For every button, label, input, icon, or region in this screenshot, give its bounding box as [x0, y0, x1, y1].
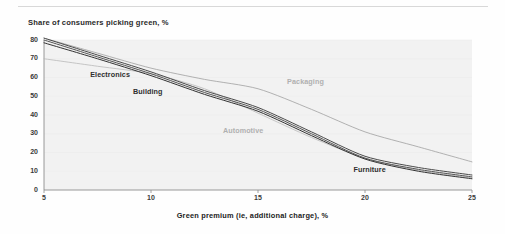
- y-tick-label-30: 30: [20, 129, 38, 136]
- x-tick-label-25: 25: [460, 194, 484, 201]
- series-label-packaging: Packaging: [287, 77, 324, 86]
- x-tick-label-20: 20: [353, 194, 377, 201]
- y-tick-label-50: 50: [20, 92, 38, 99]
- x-axis-label: Green premium (ie, additional charge), %: [0, 211, 505, 220]
- y-tick-label-60: 60: [20, 73, 38, 80]
- y-tick-label-10: 10: [20, 167, 38, 174]
- x-tick-label-10: 10: [139, 194, 163, 201]
- x-tick-label-15: 15: [246, 194, 270, 201]
- figure-canvas: Share of consumers picking green, % 0102…: [0, 0, 505, 234]
- series-label-furniture: Furniture: [353, 165, 385, 174]
- series-label-electronics: Electronics: [90, 70, 130, 79]
- series-label-automotive: Automotive: [223, 126, 264, 135]
- y-tick-label-80: 80: [20, 36, 38, 43]
- series-label-building: Building: [133, 87, 163, 96]
- y-tick-label-0: 0: [20, 186, 38, 193]
- y-tick-label-70: 70: [20, 54, 38, 61]
- y-tick-label-20: 20: [20, 148, 38, 155]
- x-tick-label-5: 5: [32, 194, 56, 201]
- y-tick-label-40: 40: [20, 111, 38, 118]
